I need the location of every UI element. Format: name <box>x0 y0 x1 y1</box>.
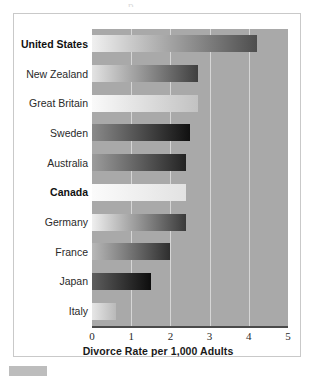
bar-chart: United StatesNew ZealandGreat BritainSwe… <box>14 14 302 358</box>
category-label: Japan <box>14 275 88 287</box>
x-axis-tick-labels: 012345 <box>92 329 288 345</box>
bar <box>92 184 186 201</box>
plot-panel <box>92 29 288 326</box>
x-tick-label: 4 <box>239 329 259 343</box>
gridline <box>210 29 211 326</box>
category-axis-labels: United StatesNew ZealandGreat BritainSwe… <box>14 29 88 326</box>
x-tick-label: 5 <box>278 329 298 343</box>
category-label: Great Britain <box>14 97 88 109</box>
x-axis-line <box>92 326 288 328</box>
category-label: Canada <box>14 186 88 198</box>
gridline <box>249 29 250 326</box>
category-label: New Zealand <box>14 68 88 80</box>
top-text-remnant: p <box>128 0 188 7</box>
x-tick-label: 2 <box>160 329 180 343</box>
x-tick-label: 1 <box>121 329 141 343</box>
bar <box>92 35 257 52</box>
figure-frame: United StatesNew ZealandGreat BritainSwe… <box>13 13 301 357</box>
bar <box>92 154 186 171</box>
x-axis-title: Divorce Rate per 1,000 Adults <box>14 345 302 357</box>
bar <box>92 65 198 82</box>
bar <box>92 214 186 231</box>
bar <box>92 243 170 260</box>
category-label: France <box>14 246 88 258</box>
category-label: Australia <box>14 157 88 169</box>
bar <box>92 95 198 112</box>
bottom-gray-swatch <box>9 366 47 376</box>
category-label: United States <box>14 38 88 50</box>
x-tick-label: 0 <box>82 329 102 343</box>
category-label: Germany <box>14 216 88 228</box>
bar <box>92 124 190 141</box>
bar <box>92 273 151 290</box>
bar <box>92 303 116 320</box>
category-label: Italy <box>14 305 88 317</box>
x-tick-label: 3 <box>200 329 220 343</box>
category-label: Sweden <box>14 127 88 139</box>
